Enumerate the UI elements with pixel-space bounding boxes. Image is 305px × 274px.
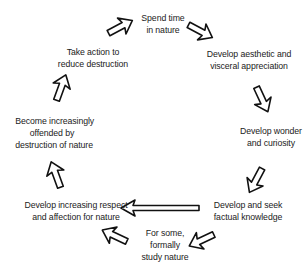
node-line: formally	[137, 239, 192, 251]
node-formally-study: For some, formally study nature	[137, 227, 192, 263]
node-line: Develop aesthetic and	[203, 48, 295, 60]
node-line: Take action to	[53, 46, 132, 58]
node-factual-knowledge: Develop and seek factual knowledge	[210, 199, 285, 223]
node-take-action: Take action to reduce destruction	[53, 46, 132, 70]
node-line: in nature	[134, 24, 191, 36]
node-line: and curiosity	[238, 137, 304, 149]
node-aesthetic-appreciation: Develop aesthetic and visceral appreciat…	[203, 48, 295, 72]
node-line: Develop wonder	[238, 125, 304, 137]
node-line: factual knowledge	[210, 211, 285, 223]
node-line: Develop and seek	[210, 199, 285, 211]
node-line: reduce destruction	[53, 58, 132, 70]
arrow-icon-n2-n3	[248, 83, 276, 115]
node-line: For some,	[137, 227, 192, 239]
arrow-icon-n8-n1	[104, 12, 136, 41]
node-line: offended by	[15, 127, 89, 139]
arrow-icon-n6-n7	[43, 159, 69, 191]
node-line: visceral appreciation	[203, 60, 295, 72]
node-line: and affection for nature	[21, 211, 131, 223]
node-line: Develop increasing respect	[21, 199, 131, 211]
arrow-icon-n4-n6	[121, 200, 199, 216]
node-line: study nature	[137, 251, 192, 263]
node-respect-affection: Develop increasing respect and affection…	[21, 199, 131, 223]
node-offended-destruction: Become increasingly offended by destruct…	[15, 115, 89, 151]
node-spend-time: Spend time in nature	[134, 12, 191, 36]
node-line: destruction of nature	[15, 139, 89, 151]
arrow-icon-n3-n4	[241, 164, 270, 196]
node-line: Become increasingly	[15, 115, 89, 127]
arrow-icon-n7-n8	[48, 72, 74, 104]
node-line: Spend time	[134, 12, 191, 24]
arrow-icon-n5-n6	[99, 222, 131, 250]
node-wonder-curiosity: Develop wonder and curiosity	[238, 125, 304, 149]
